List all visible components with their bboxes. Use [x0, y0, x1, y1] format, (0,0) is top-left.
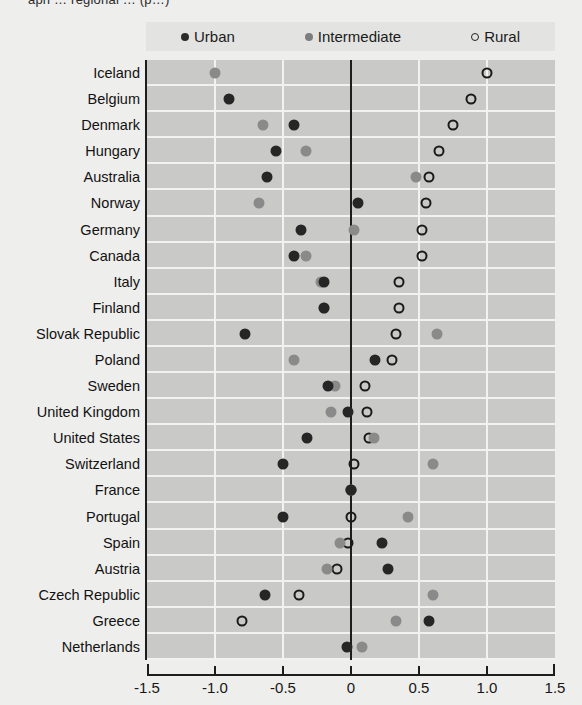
data-point-rural [386, 355, 397, 366]
category-label: Austria [2, 561, 140, 577]
data-point-intermediate [325, 407, 336, 418]
intermediate-dot-icon [305, 33, 313, 41]
data-point-rural [346, 511, 357, 522]
x-axis-tick-label: 1.5 [545, 679, 566, 696]
data-point-urban [302, 433, 313, 444]
data-point-intermediate [403, 511, 414, 522]
data-point-intermediate [427, 589, 438, 600]
category-label: Canada [2, 248, 140, 264]
data-point-rural [393, 302, 404, 313]
category-label: Sweden [2, 378, 140, 394]
category-label-column: IcelandBelgiumDenmarkHungaryAustraliaNor… [0, 60, 140, 660]
x-gridline [214, 60, 216, 660]
data-point-rural [348, 459, 359, 470]
x-axis-tick-label: 0.5 [409, 679, 430, 696]
data-point-urban [341, 641, 352, 652]
category-label: Australia [2, 169, 140, 185]
category-label: United States [2, 430, 140, 446]
legend-item-urban[interactable]: Urban [181, 28, 235, 45]
x-axis-tick-label: 0 [347, 679, 355, 696]
category-label: Finland [2, 300, 140, 316]
data-point-intermediate [427, 459, 438, 470]
data-point-rural [294, 589, 305, 600]
category-label: United Kingdom [2, 404, 140, 420]
data-point-urban [423, 615, 434, 626]
data-point-urban [288, 250, 299, 261]
data-point-urban [278, 511, 289, 522]
category-label: France [2, 482, 140, 498]
rural-open-circle-icon [471, 33, 479, 41]
x-axis-tick-label: 1.0 [477, 679, 498, 696]
data-point-intermediate [301, 146, 312, 157]
data-point-rural [416, 250, 427, 261]
data-point-rural [420, 198, 431, 209]
x-axis-tick-label: -0.5 [270, 679, 296, 696]
category-label: Poland [2, 352, 140, 368]
zero-reference-line [350, 60, 352, 660]
data-point-urban [370, 355, 381, 366]
category-label: Italy [2, 274, 140, 290]
x-axis-tick [282, 666, 284, 676]
plot-wrapper: IcelandBelgiumDenmarkHungaryAustraliaNor… [0, 60, 582, 705]
data-point-intermediate [411, 172, 422, 183]
urban-dot-icon [181, 33, 189, 41]
data-point-rural [448, 120, 459, 131]
data-point-intermediate [390, 615, 401, 626]
legend-item-label: Rural [484, 28, 520, 45]
data-point-urban [318, 276, 329, 287]
category-label: Germany [2, 222, 140, 238]
data-point-urban [223, 94, 234, 105]
x-axis-tick [350, 666, 352, 676]
category-label: Denmark [2, 117, 140, 133]
legend-item-intermediate[interactable]: Intermediate [305, 28, 401, 45]
cropped-title-strip: aph … regional … (p…) [0, 0, 582, 14]
x-axis-tick-label: -1.0 [202, 679, 228, 696]
data-point-urban [295, 224, 306, 235]
category-label: Netherlands [2, 639, 140, 655]
data-point-rural [359, 381, 370, 392]
data-point-rural [332, 563, 343, 574]
category-label: Czech Republic [2, 587, 140, 603]
data-point-urban [278, 459, 289, 470]
data-point-intermediate [431, 328, 442, 339]
x-gridline [282, 60, 284, 660]
data-point-rural [434, 146, 445, 157]
category-label: Iceland [2, 65, 140, 81]
data-point-rural [416, 224, 427, 235]
data-point-rural [482, 68, 493, 79]
category-label: Spain [2, 535, 140, 551]
x-axis: -1.5-1.0-0.500.51.01.5 [147, 660, 555, 705]
category-label: Slovak Republic [2, 326, 140, 342]
data-point-intermediate [356, 641, 367, 652]
data-point-urban [352, 198, 363, 209]
data-point-rural [423, 172, 434, 183]
data-point-intermediate [288, 355, 299, 366]
plot-area [147, 60, 555, 660]
x-axis-tick [486, 666, 488, 676]
category-label: Belgium [2, 91, 140, 107]
data-point-intermediate [369, 433, 380, 444]
cropped-title-text: aph … regional … (p…) [28, 0, 169, 6]
data-point-rural [390, 328, 401, 339]
x-axis-end-cap [553, 664, 555, 676]
x-axis-tick [214, 666, 216, 676]
category-label: Greece [2, 613, 140, 629]
category-label: Switzerland [2, 456, 140, 472]
data-point-urban [377, 537, 388, 548]
category-label: Hungary [2, 143, 140, 159]
data-point-urban [288, 120, 299, 131]
legend-item-label: Intermediate [318, 28, 401, 45]
category-label: Norway [2, 195, 140, 211]
data-point-intermediate [348, 224, 359, 235]
x-axis-tick-label: -1.5 [134, 679, 160, 696]
x-gridline [418, 60, 420, 660]
data-point-urban [239, 328, 250, 339]
data-point-urban [346, 485, 357, 496]
data-point-rural [393, 276, 404, 287]
data-point-urban [318, 302, 329, 313]
legend-item-rural[interactable]: Rural [471, 28, 520, 45]
x-axis-tick [418, 666, 420, 676]
data-point-rural [465, 94, 476, 105]
data-point-intermediate [321, 563, 332, 574]
legend-item-label: Urban [194, 28, 235, 45]
